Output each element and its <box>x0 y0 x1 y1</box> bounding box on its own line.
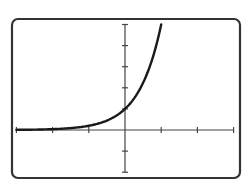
function-plot <box>0 0 243 183</box>
screen-frame <box>12 19 240 178</box>
graphing-calculator-screen <box>0 0 243 183</box>
exponential-curve <box>16 25 161 130</box>
axes <box>16 25 233 173</box>
